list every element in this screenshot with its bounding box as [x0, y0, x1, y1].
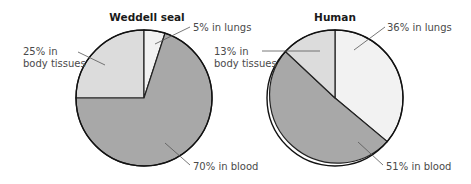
seal-blood-label: 70% in blood: [193, 161, 258, 172]
human-blood-label: 51% in blood: [386, 161, 451, 172]
seal-tissues-label-line1: 25% in: [23, 46, 58, 57]
weddell-seal-pie: [76, 30, 212, 166]
human-pie: [267, 30, 403, 166]
human-tissues-label-line1: 13% in: [214, 46, 249, 57]
seal-lungs-label: 5% in lungs: [193, 22, 251, 33]
human-tissues-label-line2: body tissues: [214, 58, 277, 69]
seal-slice-tissues: [76, 30, 144, 98]
pie-charts: Weddell seal 5% in lungs 25% in body tis…: [0, 0, 471, 184]
human-lungs-label: 36% in lungs: [387, 22, 452, 33]
seal-title: Weddell seal: [109, 11, 184, 23]
seal-tissues-label-line2: body tissues: [23, 58, 86, 69]
human-title: Human: [314, 11, 356, 23]
